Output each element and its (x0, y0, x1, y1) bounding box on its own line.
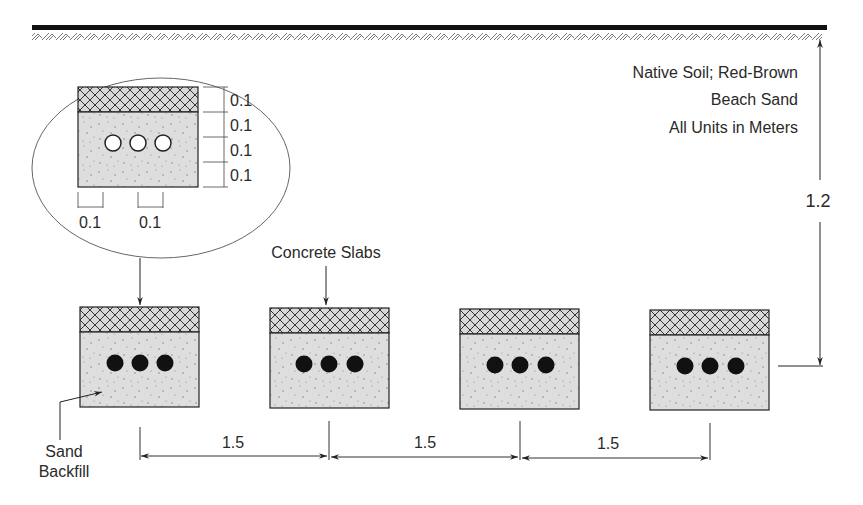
depth-label: 1.2 (805, 191, 830, 211)
backfill-label-line1: Sand (45, 443, 82, 460)
detail-dim-v2: 0.1 (230, 117, 252, 134)
cable-icon (321, 356, 338, 373)
detail-dim-v4: 0.1 (230, 167, 252, 184)
spacing-label-3: 1.5 (597, 435, 619, 452)
cable-icon (677, 358, 694, 375)
detail-dim-v3: 0.1 (230, 142, 252, 159)
cable-icon (702, 358, 719, 375)
cable-icon (347, 356, 364, 373)
note-native-soil: Native Soil; Red-Brown (633, 64, 798, 81)
cable-detail-icon (155, 135, 171, 151)
cable-icon (538, 357, 555, 374)
cable-icon (728, 358, 745, 375)
cable-icon (157, 355, 174, 372)
detail-dim-h2: 0.1 (139, 214, 161, 231)
spacing-label-1: 1.5 (222, 434, 244, 451)
notes: Native Soil; Red-Brown Beach Sand All Un… (633, 64, 798, 136)
cable-trench-diagram: Native Soil; Red-Brown Beach Sand All Un… (0, 0, 863, 505)
trench-2 (270, 308, 389, 408)
note-units: All Units in Meters (669, 119, 798, 136)
ground-surface (32, 25, 827, 42)
concrete-slabs-label: Concrete Slabs (271, 244, 380, 261)
trench-4 (650, 310, 769, 410)
cable-icon (296, 356, 313, 373)
cable-icon (132, 355, 149, 372)
spacing-dimensions: 1.5 1.5 1.5 (140, 421, 710, 460)
backfill-label-line2: Backfill (39, 463, 90, 480)
cable-detail-icon (105, 135, 121, 151)
detail-dim-h1: 0.1 (79, 214, 101, 231)
detail-dim-v1: 0.1 (230, 92, 252, 109)
cable-detail-icon (130, 135, 146, 151)
trench-1 (80, 307, 199, 407)
note-beach-sand: Beach Sand (711, 91, 798, 108)
cable-icon (487, 357, 504, 374)
depth-dimension: 1.2 (778, 40, 831, 366)
cable-icon (512, 357, 529, 374)
trench-3 (460, 309, 579, 409)
cable-icon (107, 355, 124, 372)
detail-callout: 0.1 0.1 0.1 0.1 0.1 0.1 (32, 78, 290, 305)
spacing-label-2: 1.5 (414, 434, 436, 451)
